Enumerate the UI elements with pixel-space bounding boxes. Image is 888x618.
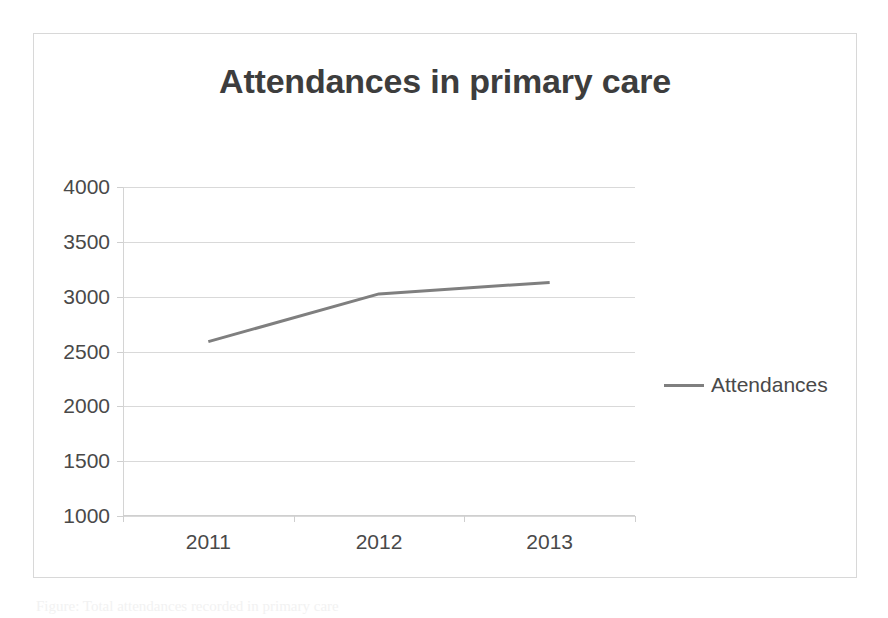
series-attendances-line — [123, 187, 635, 516]
page-caption-fragment: Figure: Total attendances recorded in pr… — [36, 598, 854, 616]
y-axis-label: 2000 — [63, 394, 110, 418]
legend-label-attendances: Attendances — [711, 373, 828, 397]
x-axis-label: 2012 — [356, 530, 403, 554]
x-axis-tick — [464, 516, 465, 522]
x-axis-label: 2013 — [526, 530, 573, 554]
x-axis-tick — [635, 516, 636, 522]
legend-swatch-attendances — [664, 384, 704, 387]
chart-legend: Attendances — [664, 373, 828, 397]
y-axis-label: 3500 — [63, 230, 110, 254]
y-axis-label: 3000 — [63, 285, 110, 309]
gridline — [123, 516, 635, 517]
figure-frame: Attendances in primary care 100015002000… — [33, 33, 857, 578]
x-axis-tick — [123, 516, 124, 522]
x-axis-tick — [294, 516, 295, 522]
x-axis-label: 2011 — [186, 530, 231, 554]
y-axis-label: 1500 — [63, 449, 110, 473]
y-axis-label: 2500 — [63, 340, 110, 364]
chart-title: Attendances in primary care — [34, 62, 856, 101]
plot-area: 1000150020002500300035004000 20112012201… — [123, 187, 635, 516]
y-axis-label: 4000 — [63, 175, 110, 199]
y-axis-label: 1000 — [63, 504, 110, 528]
